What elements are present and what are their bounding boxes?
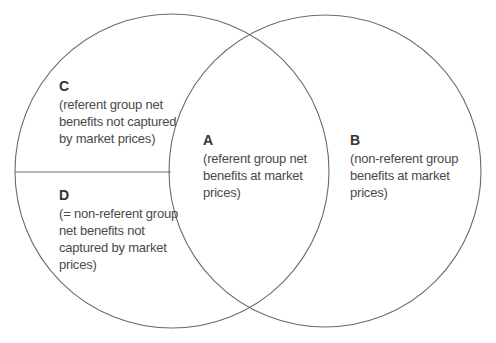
region-b: B (non-referent group benefits at market…	[350, 132, 458, 201]
region-c-letter: C	[59, 78, 176, 95]
region-c-description: (referent group net benefits not capture…	[59, 96, 176, 147]
region-a: A (referent group net benefits at market…	[203, 132, 307, 201]
region-b-description: (non-referent group benefits at market p…	[350, 150, 458, 201]
region-d: D (= non-referent group net benefits not…	[59, 187, 178, 273]
region-c: C (referent group net benefits not captu…	[59, 78, 176, 147]
region-a-description: (referent group net benefits at market p…	[203, 150, 307, 201]
region-d-letter: D	[59, 187, 178, 204]
region-d-description: (= non-referent group net benefits not c…	[59, 205, 178, 273]
region-a-letter: A	[203, 132, 307, 149]
region-b-letter: B	[350, 132, 458, 149]
